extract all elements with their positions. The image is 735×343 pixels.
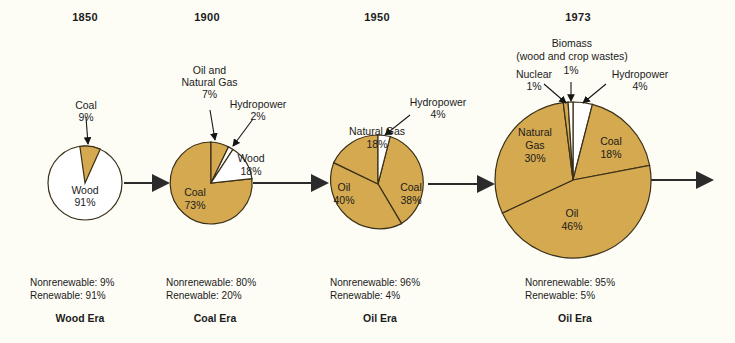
footer-1950-renewable: Renewable: 4% [330, 289, 400, 302]
slice-label-1950-coal-name: Coal [388, 181, 434, 193]
slice-label-1950-oil-pct: 40% [321, 194, 367, 206]
footer-1973-nonrenewable: Nonrenewable: 95% [525, 276, 615, 289]
slice-label-1973-coal-name: Coal [587, 135, 635, 147]
slice-label-1950-natural-gas-pct: 18% [337, 138, 417, 150]
callout-1900-hydropower-pct: 2% [221, 110, 295, 123]
callout-1973-hydropower-pct: 4% [600, 80, 680, 93]
slice-label-1850-wood-name: Wood [55, 184, 115, 196]
slice-label-1973-oil-name: Oil [548, 207, 596, 219]
callout-1973-biomass-line2: (wood and crop wastes) [498, 50, 646, 63]
footer-1850-nonrenewable: Nonrenewable: 9% [30, 276, 115, 289]
callout-1850-coal-pct: 9% [56, 111, 116, 124]
callout-1973-nuclear-name: Nuclear [501, 68, 567, 81]
footer-1850-renewable: Renewable: 91% [30, 289, 106, 302]
slice-label-1900-coal-name: Coal [168, 186, 222, 198]
energy-era-pie-figure: 1850 1900 1950 1973 Coal 9% Oil and Natu… [0, 0, 735, 343]
slice-label-1900-wood-name: Wood [225, 152, 277, 164]
callout-1950-hydropower-pct: 4% [398, 108, 478, 121]
callout-1900-hydropower-name: Hydropower [221, 98, 295, 111]
slice-label-1950-oil-name: Oil [321, 181, 367, 193]
slice-label-1950-natural-gas-name: Natural Gas [337, 125, 417, 137]
callout-1973-nuclear-pct: 1% [501, 80, 567, 93]
year-label-1973: 1973 [548, 11, 608, 23]
callout-1973-hydropower-name: Hydropower [600, 68, 680, 81]
callout-1973-biomass-line1: Biomass [526, 37, 618, 50]
slice-label-1900-wood-pct: 18% [225, 165, 277, 177]
slice-label-1973-coal-pct: 18% [587, 148, 635, 160]
slice-label-1850-wood-pct: 91% [55, 196, 115, 208]
callout-1850-coal-name: Coal [56, 99, 116, 112]
slice-label-1973-natural-gas-pct: 30% [506, 152, 564, 164]
era-label-1973: Oil Era [520, 312, 630, 324]
era-label-1950: Oil Era [325, 312, 435, 324]
footer-1950-nonrenewable: Nonrenewable: 96% [330, 276, 420, 289]
leader-1900-oil-natural-gas [210, 110, 215, 140]
leader-1900-hydropower [233, 119, 253, 146]
slice-label-1973-natural-gas-line1: Natural [506, 126, 564, 138]
callout-1950-hydropower-name: Hydropower [398, 96, 478, 109]
era-label-1850: Wood Era [25, 312, 135, 324]
slice-label-1950-coal-pct: 38% [388, 194, 434, 206]
year-label-1850: 1850 [55, 11, 115, 23]
callout-1900-oil-gas-line1: Oil and [152, 64, 267, 77]
footer-1900-nonrenewable: Nonrenewable: 80% [166, 276, 256, 289]
year-label-1900: 1900 [177, 11, 237, 23]
slice-label-1900-coal-pct: 73% [168, 199, 222, 211]
pie-1850 [48, 146, 122, 220]
era-label-1900: Coal Era [160, 312, 270, 324]
slice-label-1973-oil-pct: 46% [548, 220, 596, 232]
slice-label-1973-natural-gas-line2: Gas [506, 139, 564, 151]
callout-1900-oil-gas-line2: Natural Gas [152, 76, 267, 89]
footer-1973-renewable: Renewable: 5% [525, 289, 595, 302]
footer-1900-renewable: Renewable: 20% [166, 289, 242, 302]
year-label-1950: 1950 [347, 11, 407, 23]
